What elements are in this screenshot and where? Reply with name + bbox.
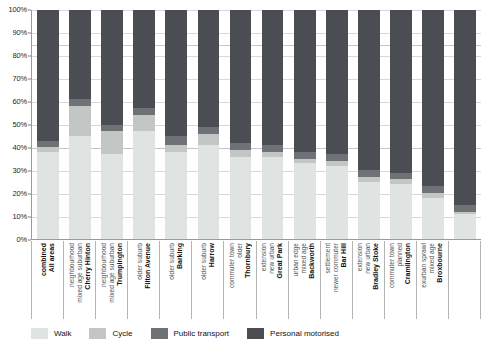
category-label: Backworthmixed ageurban edge xyxy=(292,243,316,317)
bar-segment-personal-motorised[interactable] xyxy=(294,10,316,152)
bar-segment-personal-motorised[interactable] xyxy=(230,10,252,143)
category-label: Cramlingtonplannedcommuter town xyxy=(388,243,412,317)
stacked-bar[interactable] xyxy=(230,10,252,239)
category-slot: Cramlingtonplannedcommuter town xyxy=(384,241,416,319)
bar-segment-public-transport[interactable] xyxy=(326,154,348,161)
bar-segment-walk[interactable] xyxy=(101,154,123,239)
bar-segment-personal-motorised[interactable] xyxy=(101,10,123,125)
bar-slot xyxy=(128,10,160,239)
stacked-bar[interactable] xyxy=(454,10,476,239)
legend-item[interactable]: Public transport xyxy=(151,328,230,339)
bar-slot xyxy=(353,10,385,239)
legend-item[interactable]: Cycle xyxy=(89,328,132,339)
bar-segment-personal-motorised[interactable] xyxy=(133,10,155,108)
category-slot: All areascombined xyxy=(31,241,63,319)
bar-segment-public-transport[interactable] xyxy=(69,99,91,106)
bar-segment-public-transport[interactable] xyxy=(454,205,476,212)
category-label-line: Trumpington xyxy=(116,243,124,286)
bar-slot xyxy=(160,10,192,239)
category-slot: Thornburyoldercommuter town xyxy=(223,241,255,319)
bar-segment-personal-motorised[interactable] xyxy=(358,10,380,170)
category-label-line: neighbourhood xyxy=(100,243,108,287)
bar-segment-personal-motorised[interactable] xyxy=(422,10,444,186)
bar-segment-personal-motorised[interactable] xyxy=(37,10,59,141)
bar-segment-cycle[interactable] xyxy=(198,134,220,145)
bar-slot xyxy=(224,10,256,239)
legend-item[interactable]: Walk xyxy=(31,328,71,339)
category-slot: Filton Avenueolder suburb xyxy=(127,241,159,319)
category-slot: Harrowolder suburb xyxy=(191,241,223,319)
category-label-line: Broxbourne xyxy=(436,243,444,283)
bar-segment-walk[interactable] xyxy=(69,136,91,239)
bar-segment-public-transport[interactable] xyxy=(358,170,380,177)
category-slot: Bradley Stokenew urbanextension xyxy=(352,241,384,319)
bar-segment-walk[interactable] xyxy=(390,184,412,239)
stacked-bar[interactable] xyxy=(133,10,155,239)
category-label: Bar Hillnewer commutersettlement xyxy=(324,243,348,317)
bar-segment-personal-motorised[interactable] xyxy=(326,10,348,154)
bar-segment-personal-motorised[interactable] xyxy=(69,10,91,99)
bar-segment-walk[interactable] xyxy=(294,163,316,239)
stacked-bar[interactable] xyxy=(69,10,91,239)
bar-segment-public-transport[interactable] xyxy=(390,173,412,180)
stacked-bar[interactable] xyxy=(37,10,59,239)
category-axis-labels: All areascombinedCherry Hintonmixed age … xyxy=(31,241,481,319)
y-axis: 0%10%20%30%40%50%60%70%80%90%100% xyxy=(0,10,31,240)
bar-segment-walk[interactable] xyxy=(454,214,476,239)
bar-segment-walk[interactable] xyxy=(165,152,187,239)
category-label-line: commuter town xyxy=(388,243,396,288)
bar-segment-walk[interactable] xyxy=(198,145,220,239)
bar-segment-personal-motorised[interactable] xyxy=(165,10,187,136)
bar-segment-personal-motorised[interactable] xyxy=(262,10,284,145)
category-label-line: new urban xyxy=(364,243,372,274)
category-label-line: newer commuter xyxy=(332,243,340,292)
bar-segment-walk[interactable] xyxy=(326,166,348,239)
stacked-bar[interactable] xyxy=(422,10,444,239)
bar-segment-public-transport[interactable] xyxy=(101,125,123,132)
bar-slot xyxy=(32,10,64,239)
category-label: Trumpingtonmixed age suburbanneighbourho… xyxy=(100,243,124,317)
category-label-line: Filton Avenue xyxy=(144,243,152,289)
category-slot: Backworthmixed ageurban edge xyxy=(288,241,320,319)
bar-segment-public-transport[interactable] xyxy=(294,152,316,159)
bar-segment-personal-motorised[interactable] xyxy=(454,10,476,205)
bar-segment-cycle[interactable] xyxy=(69,106,91,136)
legend-item[interactable]: Personal motorised xyxy=(247,328,339,339)
bar-segment-public-transport[interactable] xyxy=(198,127,220,134)
stacked-bar[interactable] xyxy=(326,10,348,239)
category-slot: Bar Hillnewer commutersettlement xyxy=(320,241,352,319)
bar-segment-walk[interactable] xyxy=(262,157,284,239)
bar-segment-personal-motorised[interactable] xyxy=(198,10,220,127)
stacked-bar[interactable] xyxy=(390,10,412,239)
bar-segment-public-transport[interactable] xyxy=(133,108,155,115)
bar-slot xyxy=(449,10,481,239)
bar-segment-cycle[interactable] xyxy=(165,145,187,152)
bar-segment-walk[interactable] xyxy=(230,157,252,239)
category-label-line: Barking xyxy=(176,243,184,269)
category-label-line: Bar Hill xyxy=(340,243,348,268)
bar-segment-public-transport[interactable] xyxy=(165,136,187,145)
bar-segment-personal-motorised[interactable] xyxy=(390,10,412,173)
bar-segment-walk[interactable] xyxy=(358,182,380,239)
bar-segment-cycle[interactable] xyxy=(101,131,123,154)
y-tick-label: 80% xyxy=(13,52,27,60)
bars-layer xyxy=(32,10,481,239)
bar-segment-walk[interactable] xyxy=(37,152,59,239)
bar-segment-public-transport[interactable] xyxy=(230,143,252,150)
stacked-bar[interactable] xyxy=(294,10,316,239)
bar-segment-walk[interactable] xyxy=(422,198,444,239)
stacked-bar[interactable] xyxy=(165,10,187,239)
stacked-bar[interactable] xyxy=(358,10,380,239)
bar-slot xyxy=(289,10,321,239)
bar-slot xyxy=(321,10,353,239)
stacked-bar[interactable] xyxy=(198,10,220,239)
bar-segment-public-transport[interactable] xyxy=(262,145,284,152)
stacked-bar[interactable] xyxy=(262,10,284,239)
category-label-line: neighbourhood xyxy=(68,243,76,287)
stacked-bar[interactable] xyxy=(101,10,123,239)
bar-segment-cycle[interactable] xyxy=(133,115,155,131)
bar-segment-public-transport[interactable] xyxy=(422,186,444,193)
bar-segment-cycle[interactable] xyxy=(230,150,252,157)
bar-segment-public-transport[interactable] xyxy=(37,141,59,148)
bar-segment-walk[interactable] xyxy=(133,131,155,239)
